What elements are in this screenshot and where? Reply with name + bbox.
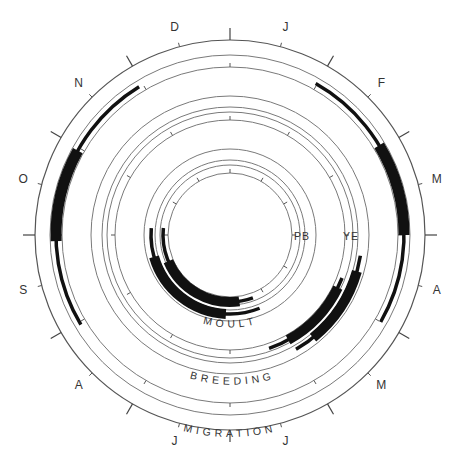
breeding-label: BREEDING — [189, 369, 276, 387]
month-boundary-tick — [399, 132, 409, 138]
ring-tick — [173, 202, 176, 204]
group-label-pb: PB — [294, 230, 310, 242]
month-label: J — [282, 434, 288, 448]
ring-tick — [81, 319, 84, 321]
mid-month-tick — [38, 183, 42, 184]
month-label: D — [170, 20, 179, 34]
mid-month-tick — [418, 183, 422, 184]
ring-tick — [261, 289, 263, 292]
ring-tick — [144, 86, 146, 89]
mid-month-tick — [368, 373, 371, 376]
month-boundary-tick — [127, 404, 133, 414]
month-label: M — [376, 378, 386, 392]
moult-label: MOULT — [202, 314, 258, 330]
mid-month-tick — [38, 285, 42, 286]
ring-tick — [81, 149, 84, 151]
moult-ring — [144, 149, 316, 321]
mid-month-tick — [280, 423, 281, 427]
month-label: S — [19, 283, 27, 297]
mid-month-tick — [178, 43, 179, 47]
annual-cycle-diagram: JFMAMJJASOND MIGRATION BREEDING MOULT PB… — [0, 0, 458, 467]
autumn-migration-thin-bar — [56, 87, 139, 325]
month-label: A — [75, 378, 83, 392]
ring-tick — [144, 380, 146, 383]
ring-tick — [171, 132, 173, 135]
breeding-ring — [91, 96, 369, 374]
month-boundary-tick — [127, 56, 133, 66]
month-label: N — [74, 76, 83, 90]
month-label: F — [378, 76, 385, 90]
ring-tick — [375, 319, 378, 321]
spring-migration-thin-bar — [316, 84, 404, 322]
month-label: O — [19, 172, 28, 186]
month-label: M — [432, 172, 442, 186]
mid-month-tick — [89, 94, 92, 97]
ring-tick — [284, 202, 287, 204]
ring-tick — [127, 293, 130, 295]
mid-month-tick — [89, 373, 92, 376]
month-label: J — [282, 20, 288, 34]
month-boundary-tick — [399, 333, 409, 339]
month-boundary-tick — [328, 404, 334, 414]
migration-label: MIGRATION — [183, 421, 278, 439]
ring-tick — [288, 132, 290, 135]
month-label: J — [172, 434, 178, 448]
moult-ring — [168, 173, 292, 297]
ring-tick — [284, 266, 287, 268]
month-boundary-tick — [328, 56, 334, 66]
group-label-ye: YE — [343, 230, 359, 242]
ring-tick — [197, 178, 199, 181]
concentric-rings — [35, 40, 425, 430]
migration-ring — [35, 40, 425, 430]
mid-month-tick — [368, 94, 371, 97]
month-boundary-tick — [51, 333, 61, 339]
mid-month-tick — [418, 285, 422, 286]
ring-labels: MIGRATION BREEDING MOULT PB YE — [183, 230, 359, 439]
ring-tick — [330, 176, 333, 178]
ring-tick — [261, 178, 263, 181]
ring-tick — [314, 380, 316, 383]
ring-tick — [127, 176, 130, 178]
ring-tick — [314, 86, 316, 89]
month-boundary-tick — [51, 132, 61, 138]
mid-month-tick — [280, 43, 281, 47]
month-label: A — [433, 283, 441, 297]
ring-tick — [171, 335, 173, 338]
mid-month-tick — [178, 423, 179, 427]
